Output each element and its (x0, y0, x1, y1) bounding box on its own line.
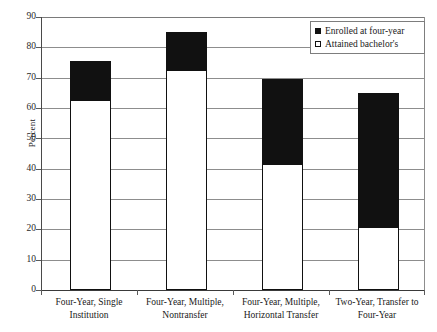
legend-item-1: Enrolled at four-year (315, 24, 421, 37)
x-axis-label-line-2: Four-Year (323, 309, 431, 322)
x-axis-labels: Four-Year, SingleInstitutionFour-Year, M… (41, 296, 425, 332)
stacked-bar-chart: Percent 0102030405060708090 Four-Year, S… (0, 0, 437, 332)
x-axis-label-4: Two-Year, Transfer toFour-Year (323, 296, 431, 322)
open-square-icon (315, 41, 321, 47)
y-tick-label-90: 90 (10, 12, 36, 22)
x-axis-separator-3 (329, 290, 330, 295)
y-tick-label-30: 30 (10, 194, 36, 204)
x-axis-label-line-2: Nontransfer (131, 309, 239, 322)
x-axis-separator-4 (424, 290, 425, 295)
x-axis-separator-0 (41, 290, 42, 295)
bar-segment-attained-bachelors-3 (262, 164, 303, 290)
bar-segment-attained-bachelors-1 (70, 100, 111, 290)
bar-3 (262, 79, 303, 290)
x-axis-label-line-1: Two-Year, Transfer to (323, 296, 431, 309)
bar-segment-attained-bachelors-4 (358, 227, 399, 290)
x-axis-label-line-2: Institution (35, 309, 143, 322)
bar-segment-attained-bachelors-2 (166, 70, 207, 290)
bar-segment-enrolled-four-year-3 (262, 79, 303, 164)
bar-segment-enrolled-four-year-4 (358, 93, 399, 227)
bar-segment-enrolled-four-year-1 (70, 61, 111, 100)
x-axis-separator-1 (137, 290, 138, 295)
x-axis-label-2: Four-Year, Multiple,Nontransfer (131, 296, 239, 322)
y-tick-label-80: 80 (10, 42, 36, 52)
x-axis-label-3: Four-Year, Multiple,Horizontal Transfer (227, 296, 335, 322)
x-axis-label-1: Four-Year, SingleInstitution (35, 296, 143, 322)
bar-4 (358, 93, 399, 290)
legend-label: Enrolled at four-year (325, 26, 404, 36)
x-axis-label-line-1: Four-Year, Multiple, (131, 296, 239, 309)
y-tick-label-40: 40 (10, 164, 36, 174)
filled-square-icon (315, 28, 321, 34)
gridline-90 (42, 17, 424, 18)
y-tick-label-0: 0 (10, 285, 36, 295)
legend-item-2: Attained bachelor's (315, 37, 421, 50)
y-tick-label-10: 10 (10, 255, 36, 265)
bar-segment-enrolled-four-year-2 (166, 32, 207, 70)
y-tick-label-60: 60 (10, 103, 36, 113)
x-axis-label-line-1: Four-Year, Multiple, (227, 296, 335, 309)
legend-label: Attained bachelor's (325, 39, 398, 49)
bar-2 (166, 32, 207, 290)
x-axis-label-line-2: Horizontal Transfer (227, 309, 335, 322)
y-tick-label-70: 70 (10, 73, 36, 83)
y-tick-label-50: 50 (10, 133, 36, 143)
x-axis-label-line-1: Four-Year, Single (35, 296, 143, 309)
bar-1 (70, 61, 111, 290)
plot-area (41, 17, 425, 290)
y-tick-label-20: 20 (10, 224, 36, 234)
chart-legend: Enrolled at four-yearAttained bachelor's (310, 21, 425, 54)
x-axis-separator-2 (233, 290, 234, 295)
